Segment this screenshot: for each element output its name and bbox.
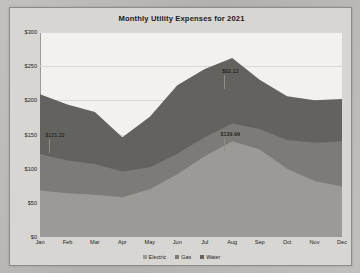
x-axis-tick-label: Sep	[255, 239, 265, 245]
legend-swatch-icon	[175, 255, 179, 259]
y-axis-tick-label: $150	[13, 132, 37, 138]
legend-label: Gas	[181, 254, 191, 260]
x-axis-tick-label: Jun	[173, 239, 182, 245]
x-axis-tick-label: Nov	[310, 239, 320, 245]
x-axis-tick-label: Jan	[35, 239, 44, 245]
legend-label: Water	[206, 254, 220, 260]
legend-item[interactable]: Water	[200, 254, 220, 260]
legend-label: Electric	[149, 254, 167, 260]
x-axis-tick-label: May	[145, 239, 156, 245]
x-axis-tick-label: Dec	[337, 239, 347, 245]
x-axis-tick-label: Mar	[90, 239, 100, 245]
chart-card: Monthly Utility Expenses for 2021 $121.3…	[9, 7, 352, 266]
screenshot-root: Monthly Utility Expenses for 2021 $121.3…	[0, 0, 360, 273]
x-axis: JanFebMarAprMayJunJulAugSepOctNovDec	[40, 239, 342, 251]
chart-title: Monthly Utility Expenses for 2021	[10, 14, 353, 23]
legend-item[interactable]: Gas	[175, 254, 191, 260]
x-axis-tick-label: Jul	[201, 239, 208, 245]
legend-item[interactable]: Electric	[143, 254, 167, 260]
x-axis-tick-label: Apr	[118, 239, 127, 245]
chart-legend: ElectricGasWater	[10, 254, 353, 260]
y-axis: $0$50$100$150$200$250$300	[10, 32, 360, 237]
y-axis-tick-label: $200	[13, 97, 37, 103]
y-axis-tick-label: $100	[13, 166, 37, 172]
y-axis-tick-label: $250	[13, 63, 37, 69]
y-axis-tick-label: $300	[13, 29, 37, 35]
x-axis-tick-label: Oct	[283, 239, 292, 245]
x-axis-tick-label: Aug	[227, 239, 237, 245]
y-axis-tick-label: $0	[13, 234, 37, 240]
legend-swatch-icon	[200, 255, 204, 259]
y-axis-tick-label: $50	[13, 200, 37, 206]
legend-swatch-icon	[143, 255, 147, 259]
x-axis-tick-label: Feb	[63, 239, 73, 245]
